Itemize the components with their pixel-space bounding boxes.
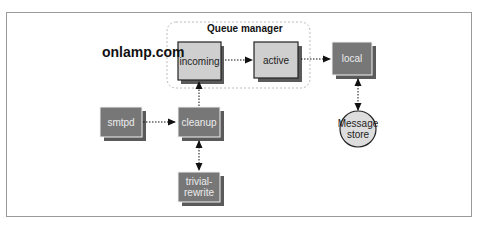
node-local[interactable] [332,42,376,79]
queue-manager-label: Queue manager [207,23,283,34]
node-cleanup[interactable] [178,107,224,141]
node-incoming[interactable] [178,42,224,84]
node-active[interactable] [254,42,302,82]
node-message-store[interactable] [340,111,376,147]
node-smtpd[interactable] [100,107,146,141]
diagram-canvas [0,0,480,227]
brand-label: onlamp.com [102,44,184,60]
node-trivial-rewrite[interactable] [178,172,224,206]
